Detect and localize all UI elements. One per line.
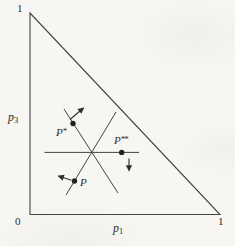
x-axis-right-tick-label: 1 (218, 216, 224, 227)
y-axis-label-subscript: 3 (14, 115, 18, 125)
point-p-label-base: P (80, 176, 87, 188)
x-axis-label-subscript: 1 (119, 226, 123, 236)
x-axis-label: p1 (113, 222, 123, 236)
west-arrow-icon (59, 176, 72, 180)
point-p-star-label: P* (56, 127, 66, 138)
simplex-triangle-outline (30, 13, 220, 215)
point-p-star-dot (70, 121, 75, 126)
diagram-canvas (0, 0, 235, 246)
point-p-star-label-base: P (56, 126, 63, 138)
point-p-double-star-label-base: P (114, 134, 121, 146)
point-p-double-star-dot (119, 150, 124, 155)
probability-simplex-diagram: 1 0 1 p3 p1 P* P** P (0, 0, 235, 246)
y-axis-label: p3 (8, 111, 18, 125)
point-p-star-label-superscript: * (63, 126, 67, 136)
point-p-double-star-label-superscript: ** (121, 134, 128, 144)
point-p-dot (72, 178, 77, 183)
point-p-label: P (80, 177, 87, 188)
point-p-double-star-label: P** (114, 135, 128, 146)
northeast-arrow-icon (70, 108, 84, 120)
y-axis-top-tick-label: 1 (17, 3, 23, 14)
origin-tick-label: 0 (15, 216, 21, 227)
